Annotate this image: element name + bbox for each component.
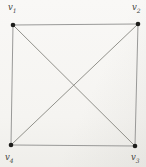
vertex-label-v1: v1 — [8, 2, 17, 14]
vertex-label-subscript-v1: 1 — [13, 7, 17, 14]
vertex-label-subscript-v4: 4 — [9, 157, 14, 164]
edge-v2-v3 — [135, 24, 138, 146]
edge-v1-v2 — [13, 24, 138, 25]
vertex-v1 — [11, 23, 16, 28]
vertex-label-v2: v2 — [132, 2, 141, 14]
vertex-v4 — [9, 143, 14, 148]
vertex-label-v4: v4 — [5, 152, 14, 164]
scanned-page-background: v1v2v3v4 — [0, 0, 146, 167]
vertex-label-v3: v3 — [131, 152, 140, 164]
vertex-v3 — [133, 144, 138, 149]
edge-v3-v4 — [11, 145, 135, 146]
k4-graph-figure: v1v2v3v4 — [0, 0, 146, 167]
vertex-label-subscript-v2: 2 — [136, 7, 141, 14]
vertex-label-subscript-v3: 3 — [136, 157, 140, 164]
edge-v4-v1 — [11, 25, 13, 145]
vertex-v2 — [136, 22, 141, 27]
